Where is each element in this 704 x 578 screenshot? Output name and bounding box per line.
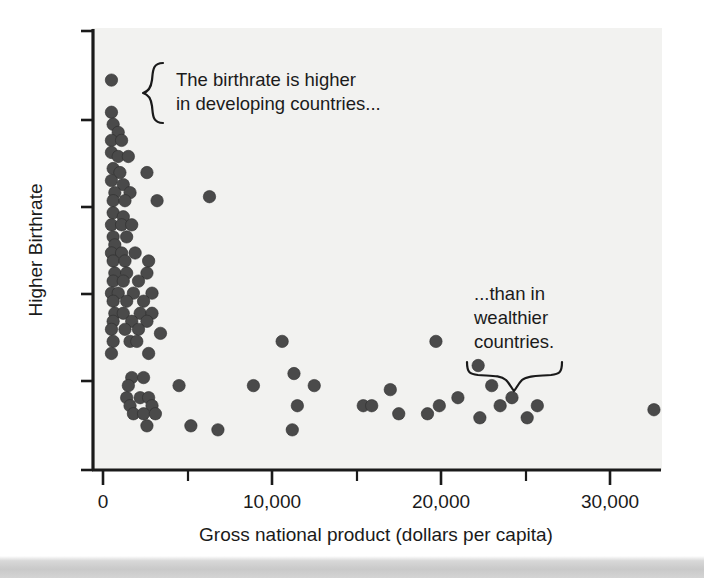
data-point bbox=[286, 424, 298, 436]
data-point bbox=[115, 134, 127, 146]
data-point bbox=[474, 412, 486, 424]
data-point bbox=[132, 275, 144, 287]
right-annotation-line-2: wealthier bbox=[473, 307, 548, 328]
data-point bbox=[107, 195, 119, 207]
x-tick-label-30000: 30,000 bbox=[581, 491, 639, 512]
data-point bbox=[288, 367, 300, 379]
data-point bbox=[173, 379, 185, 391]
data-point bbox=[122, 150, 134, 162]
data-point bbox=[117, 275, 129, 287]
data-point bbox=[308, 379, 320, 391]
data-point bbox=[105, 323, 117, 335]
data-point bbox=[120, 295, 132, 307]
y-axis-title: Higher Birthrate bbox=[25, 183, 46, 316]
data-point bbox=[521, 412, 533, 424]
data-point bbox=[531, 400, 543, 412]
scan-edge-band bbox=[0, 556, 704, 578]
x-tick-label-0: 0 bbox=[98, 491, 109, 512]
data-point bbox=[120, 231, 132, 243]
right-annotation-line-1: ...than in bbox=[474, 283, 545, 304]
data-point bbox=[137, 408, 149, 420]
data-point bbox=[472, 359, 484, 371]
data-point bbox=[126, 219, 138, 231]
data-point bbox=[107, 335, 119, 347]
x-tick-label-20000: 20,000 bbox=[412, 491, 470, 512]
data-point bbox=[141, 166, 153, 178]
y-axis-ticks bbox=[81, 31, 93, 470]
data-point bbox=[131, 335, 143, 347]
data-point bbox=[142, 255, 154, 267]
data-point bbox=[132, 323, 144, 335]
data-point bbox=[119, 323, 131, 335]
x-tick-label-10000: 10,000 bbox=[243, 491, 301, 512]
data-point bbox=[366, 400, 378, 412]
data-point bbox=[105, 74, 117, 86]
data-point bbox=[119, 255, 131, 267]
data-point bbox=[142, 347, 154, 359]
data-point bbox=[276, 335, 288, 347]
x-axis-ticks bbox=[103, 470, 610, 485]
data-point bbox=[247, 379, 259, 391]
chart-canvas: 0 10,000 20,000 30,000 Gross national pr… bbox=[0, 0, 704, 578]
data-point bbox=[506, 391, 518, 403]
data-point bbox=[393, 408, 405, 420]
data-point bbox=[291, 400, 303, 412]
data-point bbox=[648, 404, 660, 416]
data-point bbox=[430, 335, 442, 347]
data-point bbox=[185, 420, 197, 432]
left-annotation-line-2: in developing countries... bbox=[176, 93, 381, 114]
data-point bbox=[151, 195, 163, 207]
data-point bbox=[105, 174, 117, 186]
data-point bbox=[105, 106, 117, 118]
data-point bbox=[384, 383, 396, 395]
data-point bbox=[107, 295, 119, 307]
right-annotation-line-3: countries. bbox=[474, 331, 554, 352]
data-point bbox=[154, 327, 166, 339]
data-point bbox=[203, 190, 215, 202]
data-point bbox=[141, 420, 153, 432]
data-point bbox=[486, 379, 498, 391]
data-point bbox=[452, 391, 464, 403]
data-point bbox=[129, 247, 141, 259]
data-point bbox=[494, 400, 506, 412]
scatter-plot-figure: 0 10,000 20,000 30,000 Gross national pr… bbox=[0, 0, 704, 578]
data-point bbox=[107, 255, 119, 267]
data-point bbox=[105, 347, 117, 359]
data-point bbox=[149, 408, 161, 420]
data-point bbox=[212, 424, 224, 436]
left-annotation-line-1: The birthrate is higher bbox=[176, 69, 356, 90]
data-point bbox=[137, 295, 149, 307]
data-point bbox=[122, 379, 134, 391]
data-point bbox=[421, 408, 433, 420]
data-point bbox=[119, 195, 131, 207]
data-point bbox=[137, 371, 149, 383]
x-axis-title: Gross national product (dollars per capi… bbox=[199, 524, 553, 545]
data-point bbox=[433, 400, 445, 412]
